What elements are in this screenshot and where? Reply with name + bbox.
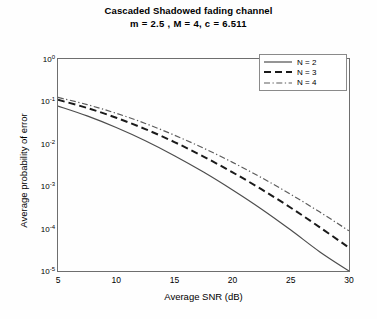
y-tick-label-1e-2: 10-2 xyxy=(41,138,55,149)
y-tick-label-1e0: 100 xyxy=(43,54,55,65)
x-tick-label-20: 20 xyxy=(228,275,237,285)
legend-label: N = 4 xyxy=(297,78,316,87)
series-line-n-4 xyxy=(58,97,349,230)
y-axis-title: Average probability of error xyxy=(18,71,29,271)
y-tick-label-1e-4: 10-4 xyxy=(41,223,55,234)
x-tick-label-5: 5 xyxy=(56,275,61,285)
chart-title-block: Cascaded Shadowed fading channel m = 2.5… xyxy=(0,4,377,30)
y-tick-label-1e-5: 10-5 xyxy=(41,266,55,277)
x-tick-label-25: 25 xyxy=(286,275,295,285)
x-tick-label-10: 10 xyxy=(111,275,120,285)
x-axis-title: Average SNR (dB) xyxy=(57,291,350,302)
legend-line-sample xyxy=(263,79,293,87)
legend-label: N = 3 xyxy=(297,68,316,77)
figure-canvas: Cascaded Shadowed fading channel m = 2.5… xyxy=(0,0,377,319)
legend-line-sample xyxy=(263,58,293,66)
x-tick-label-30: 30 xyxy=(344,275,353,285)
chart-subtitle: m = 2.5 , M = 4, c = 6.511 xyxy=(0,17,377,30)
y-tick-label-1e-3: 10-3 xyxy=(41,181,55,192)
x-tick-label-15: 15 xyxy=(170,275,179,285)
legend-item-n-3[interactable]: N = 3 xyxy=(263,67,343,77)
legend-item-n-2[interactable]: N = 2 xyxy=(263,57,343,67)
legend-line-sample xyxy=(263,68,293,76)
legend-label: N = 2 xyxy=(297,58,316,67)
legend[interactable]: N = 2N = 3N = 4 xyxy=(259,54,347,91)
series-line-n-2 xyxy=(58,106,349,271)
y-tick-label-1e-1: 10-1 xyxy=(41,96,55,107)
chart-title: Cascaded Shadowed fading channel xyxy=(0,4,377,17)
legend-item-n-4[interactable]: N = 4 xyxy=(263,78,343,88)
